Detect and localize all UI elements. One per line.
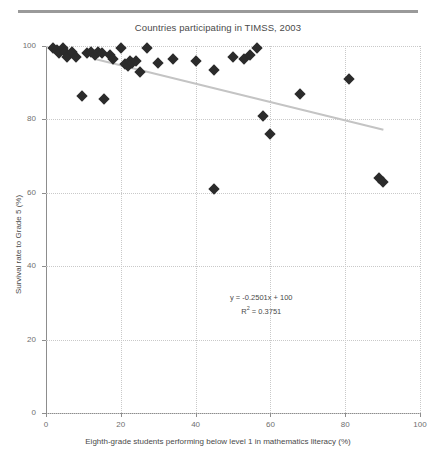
gridline-horizontal (46, 266, 420, 268)
chart-page: Countries participating in TIMSS, 2003 S… (0, 0, 436, 464)
data-point (98, 94, 109, 105)
data-point (76, 90, 87, 101)
y-tick-mark (42, 266, 46, 267)
x-tick-label: 20 (101, 420, 141, 429)
y-tick-label: 100 (0, 41, 36, 50)
data-point (115, 42, 126, 53)
data-point (141, 42, 152, 53)
gridline-horizontal (46, 413, 420, 415)
gridline-vertical (196, 46, 198, 413)
y-axis-label-wrapper: Survival rate to Grade 5 (%) (8, 40, 24, 420)
y-tick-label: 80 (0, 114, 36, 123)
gridline-vertical (420, 46, 422, 413)
x-tick-label: 100 (400, 420, 436, 429)
chart-title: Countries participating in TIMSS, 2003 (0, 22, 436, 33)
gridline-vertical (345, 46, 347, 413)
y-tick-label: 0 (0, 408, 36, 417)
data-point (167, 53, 178, 64)
r-squared-exponent: 2 (247, 305, 250, 311)
y-axis-label: Survival rate to Grade 5 (%) (14, 95, 23, 395)
x-tick-mark (46, 413, 47, 417)
x-tick-mark (420, 413, 421, 417)
x-tick-label: 80 (325, 420, 365, 429)
y-tick-mark (42, 119, 46, 120)
gridline-horizontal (46, 119, 420, 121)
trendline-annotation: y = -0.2501x + 100 R2 = 0.3751 (230, 292, 293, 317)
r-squared-value: = 0.3751 (252, 306, 281, 315)
data-point (153, 57, 164, 68)
y-tick-mark (42, 46, 46, 47)
trendline-r-squared: R2 = 0.3751 (230, 304, 293, 317)
x-axis-label: Eighth-grade students performing below l… (0, 437, 436, 446)
x-tick-mark (196, 413, 197, 417)
data-point (295, 88, 306, 99)
data-point (190, 55, 201, 66)
data-point (265, 128, 276, 139)
x-tick-mark (345, 413, 346, 417)
plot-area (46, 46, 420, 413)
y-tick-label: 40 (0, 261, 36, 270)
gridline-horizontal (46, 340, 420, 342)
x-tick-mark (121, 413, 122, 417)
gridline-horizontal (46, 193, 420, 195)
x-tick-label: 60 (250, 420, 290, 429)
y-tick-label: 60 (0, 188, 36, 197)
x-tick-mark (270, 413, 271, 417)
y-tick-mark (42, 340, 46, 341)
x-tick-label: 0 (26, 420, 66, 429)
data-point (227, 51, 238, 62)
header-divider (18, 10, 418, 13)
trendline-equation: y = -0.2501x + 100 (230, 292, 293, 304)
y-tick-label: 20 (0, 335, 36, 344)
y-tick-mark (42, 193, 46, 194)
data-point (209, 64, 220, 75)
x-tick-label: 40 (176, 420, 216, 429)
gridline-vertical (121, 46, 123, 413)
